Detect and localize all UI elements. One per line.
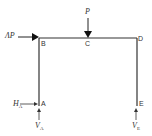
- frame-diagram: [0, 0, 152, 136]
- node-label-e: E: [139, 100, 144, 107]
- load-label-p: P: [85, 8, 90, 16]
- node-label-d: D: [138, 35, 143, 42]
- load-lambda-p-arrow-icon: [18, 33, 39, 41]
- reaction-va-arrow-icon: [37, 108, 41, 120]
- load-label-lambda-p: ΛP: [5, 32, 15, 40]
- node-label-b: B: [41, 40, 46, 47]
- reaction-label-ve: VE: [132, 122, 140, 131]
- reaction-ve-arrow-icon: [134, 108, 138, 120]
- node-label-c: C: [85, 40, 90, 47]
- node-label-a: A: [41, 100, 46, 107]
- reaction-label-va: VA: [35, 122, 44, 131]
- load-p-arrow-icon: [84, 18, 92, 38]
- reaction-ha-arrow-icon: [20, 102, 38, 106]
- reaction-label-ha: HA: [13, 100, 22, 109]
